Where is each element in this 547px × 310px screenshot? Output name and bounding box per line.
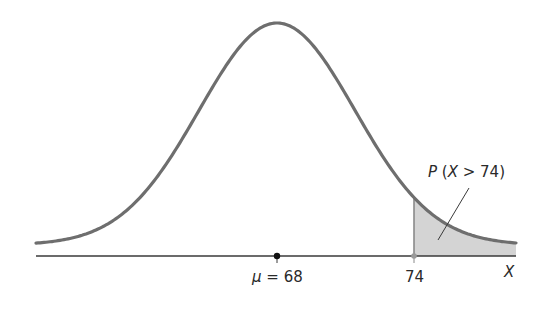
probability-label: P (X > 74) (428, 163, 505, 181)
threshold-point (411, 253, 417, 259)
shaded-tail-region (414, 198, 516, 256)
threshold-label: 74 (405, 268, 424, 286)
mean-point (274, 253, 280, 259)
normal-distribution-figure: μ = 68 74 X P (X > 74) (0, 0, 547, 310)
normal-curve (36, 23, 516, 243)
x-axis-label: X (503, 263, 515, 281)
mean-label: μ = 68 (251, 268, 303, 286)
